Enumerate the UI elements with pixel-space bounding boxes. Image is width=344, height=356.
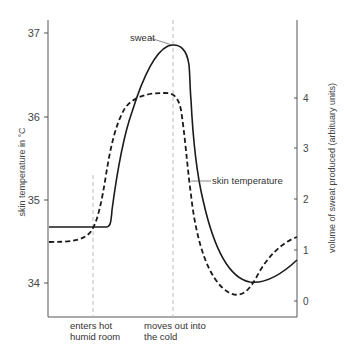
event-lines bbox=[93, 20, 173, 317]
event-label-enters-room-line1: enters hot bbox=[70, 320, 120, 331]
sweat-annotation: sweat bbox=[130, 32, 155, 43]
skin-temperature-line bbox=[49, 93, 297, 295]
chart: 37 36 35 34 4 3 2 1 0 skin temperature i… bbox=[0, 0, 344, 356]
y-left-tick-34: 34 bbox=[28, 277, 40, 289]
event-label-moves-out-line1: moves out into bbox=[144, 320, 206, 331]
y-right-tick-2: 2 bbox=[303, 194, 309, 205]
axes bbox=[44, 20, 297, 317]
y-left-tick-35: 35 bbox=[28, 194, 40, 206]
y-right-tick-1: 1 bbox=[303, 245, 309, 256]
event-label-moves-out-line2: the cold bbox=[144, 331, 206, 342]
y-right-title: volume of sweat produced (arbituary unit… bbox=[327, 83, 337, 253]
event-label-enters-room: enters hot humid room bbox=[70, 320, 120, 342]
skin-temperature-annotation: skin temperature bbox=[212, 175, 283, 186]
y-left-tick-36: 36 bbox=[28, 111, 40, 123]
event-label-moves-out: moves out into the cold bbox=[144, 320, 206, 342]
y-right-tick-4: 4 bbox=[303, 93, 309, 104]
y-left-tick-37: 37 bbox=[28, 27, 40, 39]
y-left-title: skin temperature in °C bbox=[17, 127, 27, 217]
y-right-tick-0: 0 bbox=[303, 296, 309, 307]
y-right-tick-3: 3 bbox=[303, 143, 309, 154]
event-label-enters-room-line2: humid room bbox=[70, 331, 120, 342]
